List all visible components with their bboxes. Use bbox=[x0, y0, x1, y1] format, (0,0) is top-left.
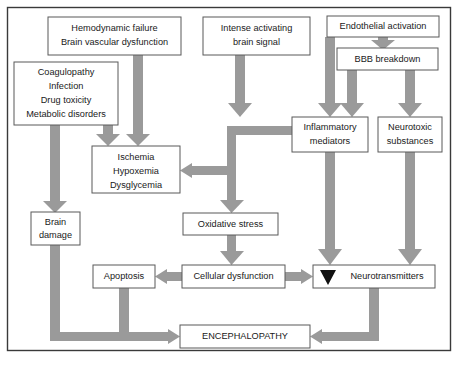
flowchart-diagram: Hemodynamic failure Brain vascular dysfu… bbox=[0, 0, 458, 369]
node-label-line: Inflammatory bbox=[303, 122, 357, 132]
node-apoptosis[interactable]: Apoptosis bbox=[93, 265, 155, 288]
node-inflammatory[interactable]: Inflammatory mediators bbox=[292, 117, 368, 152]
node-intense-signal[interactable]: Intense activating brain signal bbox=[203, 17, 310, 55]
node-label-line: Ischemia bbox=[118, 152, 156, 162]
node-label-line: Neurotoxic bbox=[388, 122, 432, 132]
node-label-line: Oxidative stress bbox=[198, 219, 264, 229]
node-label-line: ENCEPHALOPATHY bbox=[202, 331, 288, 341]
edge-shaft bbox=[325, 37, 335, 105]
node-label-line: Hypoxemia bbox=[113, 166, 160, 176]
edge-shaft bbox=[227, 235, 236, 252]
node-label-line: Brain bbox=[45, 217, 66, 227]
flowchart-canvas: Hemodynamic failure Brain vascular dysfu… bbox=[0, 0, 458, 369]
edge-shaft bbox=[167, 272, 182, 281]
node-encephalopathy[interactable]: ENCEPHALOPATHY bbox=[180, 325, 310, 348]
edge-shaft bbox=[50, 125, 60, 203]
node-label-line: mediators bbox=[310, 136, 351, 146]
node-label-line: Cellular dysfunction bbox=[193, 271, 273, 281]
node-oxidative[interactable]: Oxidative stress bbox=[183, 213, 278, 235]
node-label-line: Coagulopathy bbox=[38, 67, 95, 77]
edge-shaft-vertical bbox=[50, 245, 60, 332]
edge-shaft-horizontal bbox=[50, 332, 168, 341]
edge-shaft-horizontal bbox=[322, 332, 379, 341]
edge-shaft-horizontal bbox=[192, 166, 232, 175]
node-label-line: BBB breakdown bbox=[355, 54, 421, 64]
node-label-line: Drug toxicity bbox=[41, 95, 92, 105]
node-brain-damage[interactable]: Brain damage bbox=[31, 212, 80, 245]
node-coagulopathy[interactable]: Coagulopathy Infection Drug toxicity Met… bbox=[14, 62, 118, 125]
node-hemodynamic[interactable]: Hemodynamic failure Brain vascular dysfu… bbox=[48, 17, 181, 55]
node-label-line: Metabolic disorders bbox=[26, 109, 106, 119]
edge-shaft bbox=[347, 70, 357, 105]
node-label-line: Hemodynamic failure bbox=[71, 23, 157, 33]
edge-apoptosis-to-encephalopathy bbox=[119, 288, 129, 336]
node-label-line: Endothelial activation bbox=[340, 21, 427, 31]
node-endothelial[interactable]: Endothelial activation bbox=[327, 16, 439, 37]
node-ischemia[interactable]: Ischemia Hypoxemia Dysglycemia bbox=[92, 146, 180, 193]
edge-shaft bbox=[405, 152, 415, 251]
node-cellular[interactable]: Cellular dysfunction bbox=[182, 265, 285, 288]
node-bbb[interactable]: BBB breakdown bbox=[337, 48, 438, 70]
edge-shaft bbox=[133, 55, 143, 136]
edge-shaft bbox=[405, 70, 415, 105]
edge-shaft-vertical bbox=[369, 288, 379, 336]
edge-shaft-vertical bbox=[119, 288, 129, 336]
node-label-line: Dysglycemia bbox=[110, 180, 163, 190]
node-label-line: damage bbox=[39, 230, 72, 240]
edge-shaft bbox=[325, 152, 335, 251]
edge-shaft bbox=[285, 272, 301, 281]
edge-shaft-horizontal-top bbox=[227, 126, 292, 135]
edge-shaft bbox=[227, 175, 236, 202]
node-label-line: Apoptosis bbox=[104, 271, 145, 281]
node-label-line: substances bbox=[387, 136, 434, 146]
node-label-line: Intense activating bbox=[221, 23, 293, 33]
node-neurotoxic[interactable]: Neurotoxic substances bbox=[378, 117, 442, 152]
node-label-line: brain signal bbox=[233, 37, 280, 47]
node-label-line: Neurotransmitters bbox=[350, 271, 423, 281]
node-label-line: Brain vascular dysfunction bbox=[61, 37, 168, 47]
node-neurotransmitters[interactable]: Neurotransmitters bbox=[313, 265, 435, 288]
edge-shaft bbox=[235, 55, 245, 105]
node-label-line: Infection bbox=[49, 81, 84, 91]
